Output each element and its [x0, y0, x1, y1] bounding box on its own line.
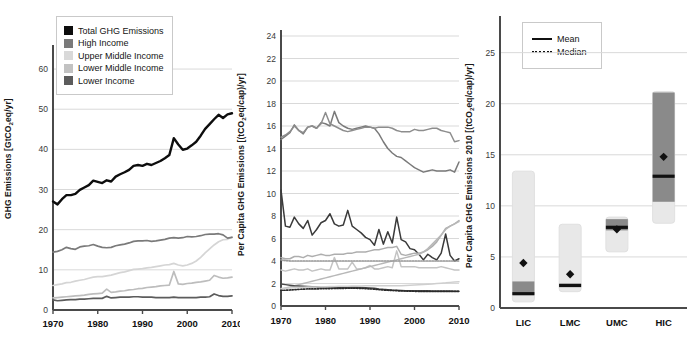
- panel-per-capita-ghg-emissions: Per Capita GHG Emissions [(tCO2eq/cap)/y…: [233, 0, 471, 339]
- legend-label: Total GHG Emissions: [78, 26, 164, 36]
- svg-text:UMC: UMC: [606, 317, 628, 328]
- svg-text:20: 20: [486, 99, 496, 109]
- svg-text:16: 16: [267, 121, 277, 131]
- svg-text:6: 6: [271, 234, 276, 244]
- svg-text:50: 50: [39, 104, 49, 114]
- svg-text:18: 18: [267, 99, 277, 109]
- swatch-upper-middle-icon: [64, 51, 73, 60]
- legend-label: Lower Income: [78, 76, 135, 86]
- svg-text:10: 10: [486, 201, 496, 211]
- panel3-plot-area: 0510152025LICLMCUMCHIC: [462, 0, 699, 339]
- panel-total-ghg-emissions: GHG Emissions [GtCO2eq/yr] 0102030405060…: [0, 0, 240, 339]
- svg-text:0: 0: [43, 305, 48, 315]
- svg-text:1980: 1980: [87, 318, 108, 329]
- svg-text:20: 20: [267, 76, 277, 86]
- svg-text:12: 12: [267, 166, 277, 176]
- legend-item-lower-income: Lower Income: [64, 76, 164, 86]
- svg-text:60: 60: [39, 64, 49, 74]
- swatch-lower-middle-icon: [64, 64, 73, 73]
- swatch-lower-income-icon: [64, 76, 73, 85]
- svg-text:10: 10: [267, 189, 277, 199]
- svg-text:0: 0: [271, 301, 276, 311]
- panel1-legend: Total GHG Emissions High Income Upper Mi…: [56, 16, 173, 95]
- svg-text:30: 30: [39, 185, 49, 195]
- svg-text:40: 40: [39, 144, 49, 154]
- svg-text:4: 4: [271, 256, 276, 266]
- svg-text:2: 2: [271, 279, 276, 289]
- svg-text:15: 15: [486, 150, 496, 160]
- swatch-total-icon: [64, 26, 73, 35]
- svg-text:22: 22: [267, 54, 277, 64]
- svg-text:1990: 1990: [132, 318, 153, 329]
- svg-text:2000: 2000: [404, 315, 425, 326]
- svg-text:1980: 1980: [315, 315, 336, 326]
- svg-text:2000: 2000: [177, 318, 198, 329]
- legend-item-total: Total GHG Emissions: [64, 26, 164, 36]
- swatch-high-income-icon: [64, 39, 73, 48]
- svg-text:14: 14: [267, 144, 277, 154]
- legend-label: Upper Middle Income: [78, 51, 164, 61]
- svg-text:0: 0: [490, 303, 495, 313]
- svg-text:25: 25: [486, 48, 496, 58]
- svg-text:24: 24: [267, 31, 277, 41]
- svg-text:LMC: LMC: [560, 317, 581, 328]
- svg-text:5: 5: [490, 252, 495, 262]
- svg-text:HIC: HIC: [655, 317, 672, 328]
- svg-text:8: 8: [271, 211, 276, 221]
- svg-text:1990: 1990: [359, 315, 380, 326]
- panel2-plot-area: 0246810121416182022241970198019902000201…: [233, 0, 471, 339]
- panel-per-capita-distribution-2010: Per Capita GHG Emissions 2010 [(tCO2eq/c…: [462, 0, 699, 339]
- legend-item-upper-middle-income: Upper Middle Income: [64, 51, 164, 61]
- legend-item-high-income: High Income: [64, 38, 164, 48]
- legend-item-lower-middle-income: Lower Middle Income: [64, 63, 164, 73]
- svg-text:1970: 1970: [42, 318, 63, 329]
- svg-text:LIC: LIC: [516, 317, 531, 328]
- svg-text:20: 20: [39, 225, 49, 235]
- ghg-emissions-figure: GHG Emissions [GtCO2eq/yr] 0102030405060…: [0, 0, 699, 339]
- svg-text:10: 10: [39, 265, 49, 275]
- legend-label: Lower Middle Income: [78, 63, 164, 73]
- svg-text:1970: 1970: [270, 315, 291, 326]
- legend-label: High Income: [78, 38, 129, 48]
